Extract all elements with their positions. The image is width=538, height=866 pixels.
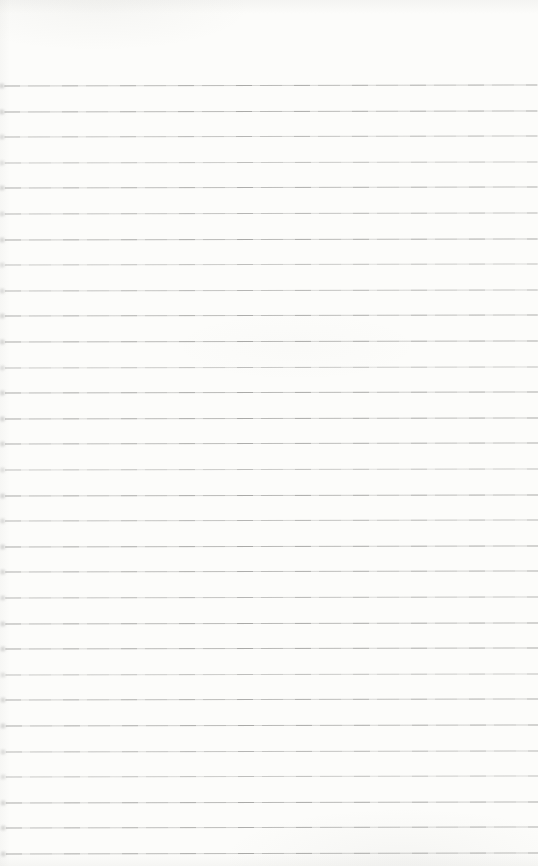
ruled-line xyxy=(5,161,538,163)
left-edge-smudge xyxy=(0,109,4,114)
ruled-line xyxy=(5,571,538,573)
left-edge-smudge xyxy=(0,237,5,242)
ruled-line xyxy=(5,392,538,394)
ruled-line xyxy=(5,699,538,701)
ruled-line xyxy=(4,85,537,87)
ruled-line xyxy=(5,213,538,215)
left-edge-smudge xyxy=(0,519,5,524)
left-edge-smudge xyxy=(0,544,5,549)
ruled-line xyxy=(5,648,538,650)
ruled-line xyxy=(5,238,538,240)
ruled-line xyxy=(5,366,538,368)
ruled-line xyxy=(5,341,538,343)
ruled-line xyxy=(5,469,538,471)
left-edge-smudge xyxy=(1,723,6,728)
left-edge-smudge xyxy=(0,314,5,319)
ruled-line xyxy=(5,187,538,189)
left-edge-smudge xyxy=(0,160,5,165)
ruled-line xyxy=(6,853,538,855)
ruled-line xyxy=(5,520,538,522)
left-edge-smudge xyxy=(0,672,5,677)
left-edge-smudge xyxy=(0,416,5,421)
left-edge-smudge xyxy=(0,288,5,293)
left-edge-smudge xyxy=(0,467,5,472)
left-edge-smudge xyxy=(0,211,5,216)
ruled-line xyxy=(6,750,538,752)
left-edge-smudge xyxy=(0,493,5,498)
left-edge-smudge xyxy=(0,83,4,88)
ruled-line xyxy=(6,801,538,803)
left-edge-smudge xyxy=(0,698,5,703)
ruled-line xyxy=(5,597,538,599)
left-edge-smudge xyxy=(0,570,5,575)
ruled-line xyxy=(6,827,538,829)
notebook-page xyxy=(0,0,538,866)
ruled-line xyxy=(5,494,538,496)
left-edge-smudge xyxy=(0,391,5,396)
ruled-line xyxy=(5,622,538,624)
ruled-line xyxy=(5,545,538,547)
left-edge-smudge xyxy=(0,595,5,600)
ruled-line xyxy=(6,725,538,727)
ruled-line xyxy=(5,673,538,675)
left-edge-smudge xyxy=(1,826,6,831)
ruled-line xyxy=(5,315,538,317)
left-edge-smudge xyxy=(0,135,4,140)
left-edge-smudge xyxy=(1,851,6,856)
left-edge-smudge xyxy=(0,621,5,626)
ruled-line xyxy=(4,136,537,138)
left-edge-smudge xyxy=(1,775,6,780)
left-edge-smudge xyxy=(0,339,5,344)
ruled-line xyxy=(5,443,538,445)
ruled-lines xyxy=(0,0,538,866)
ruled-line xyxy=(5,289,538,291)
ruled-line xyxy=(6,776,538,778)
ruled-line xyxy=(5,264,538,266)
left-edge-smudge xyxy=(0,442,5,447)
left-edge-smudge xyxy=(1,749,6,754)
ruled-line xyxy=(5,417,538,419)
left-edge-smudge xyxy=(0,186,5,191)
left-edge-smudge xyxy=(0,263,5,268)
ruled-line xyxy=(4,110,537,112)
left-edge-smudge xyxy=(0,647,5,652)
left-edge-smudge xyxy=(1,800,6,805)
left-edge-smudge xyxy=(0,365,5,370)
